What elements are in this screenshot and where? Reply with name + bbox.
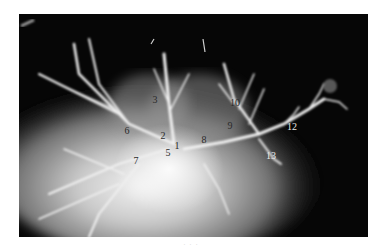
label-7: 7 [134,156,139,166]
label-1: 1 [175,141,180,151]
label-2: 2 [161,131,166,141]
figure-caption: · · · [0,241,382,249]
label-12: 12 [287,122,297,132]
label-13: 13 [266,151,276,161]
label-10: 10 [230,98,240,108]
label-9: 9 [228,121,233,131]
label-3: 3 [153,95,158,105]
label-6: 6 [125,126,130,136]
vessel-illustration [19,14,368,237]
angiogram-image: 1 2 3 5 6 7 8 9 10 12 13 [19,14,368,237]
label-8: 8 [202,135,207,145]
label-5: 5 [166,148,171,158]
